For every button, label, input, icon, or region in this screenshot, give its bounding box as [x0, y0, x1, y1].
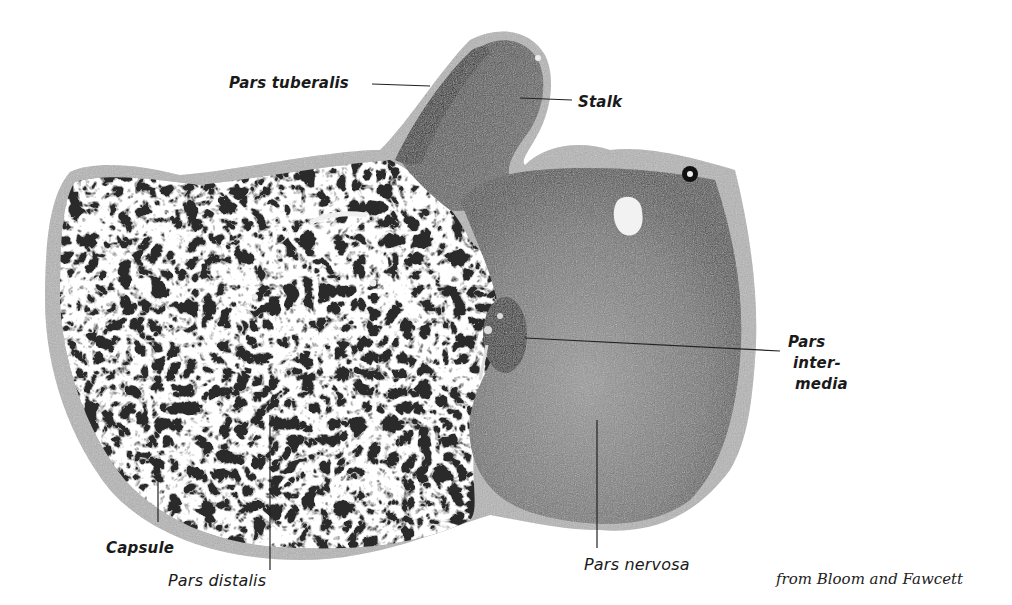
label-pars-intermedia-line1: Pars	[788, 332, 848, 353]
vessel-dot	[370, 280, 377, 287]
leader-pars-tuberalis	[372, 84, 430, 86]
vessel-dot	[497, 313, 503, 319]
pituitary-section-illustration	[0, 0, 1012, 605]
vessel-dot	[252, 294, 258, 300]
label-pars-tuberalis: Pars tuberalis	[229, 74, 349, 92]
label-pars-nervosa: Pars nervosa	[584, 555, 690, 574]
vessel-lumen	[687, 171, 693, 177]
figure-credit: from Bloom and Fawcett	[776, 570, 963, 588]
label-capsule: Capsule	[106, 539, 174, 557]
label-stalk: Stalk	[578, 93, 622, 111]
vessel-dot	[535, 55, 541, 61]
vessel-dot	[484, 326, 492, 334]
pars-intermedia-region	[483, 297, 527, 373]
label-pars-distalis: Pars distalis	[168, 571, 266, 590]
label-pars-intermedia-line2: inter-	[788, 353, 848, 374]
label-pars-intermedia: Pars inter- media	[788, 332, 848, 395]
label-pars-intermedia-line3: media	[788, 374, 848, 395]
